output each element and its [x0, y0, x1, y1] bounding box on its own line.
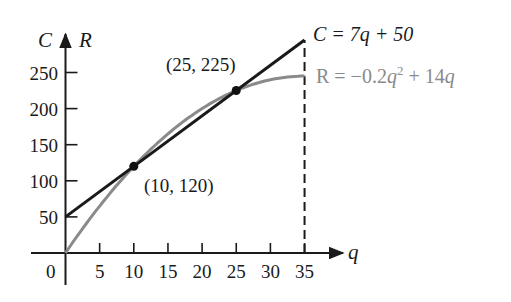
x-tick-label: 35	[295, 261, 314, 282]
cost-equation-label: C = 7q + 50	[313, 23, 413, 46]
eq-r-prefix: R = −0.2	[316, 65, 387, 87]
revenue-curve	[66, 76, 305, 253]
y-ticks: 50100150200250	[30, 63, 78, 228]
y-axis-label-c: C	[38, 28, 53, 52]
y-tick-label: 200	[30, 99, 59, 120]
x-tick-label: 15	[158, 261, 177, 282]
origin-label: 0	[46, 261, 56, 282]
x-ticks: 5101520253035	[95, 243, 314, 282]
eq-r-q: q	[387, 65, 397, 88]
point-label-25-225: (25, 225)	[166, 54, 236, 76]
x-tick-label: 30	[261, 261, 280, 282]
x-tick-label: 20	[193, 261, 212, 282]
x-tick-label: 25	[227, 261, 246, 282]
revenue-equation-label: R = −0.2q2 + 14q	[316, 63, 455, 88]
point-label-10-120: (10, 120)	[144, 175, 214, 197]
y-tick-label: 250	[30, 63, 59, 84]
intersection-point	[129, 162, 138, 171]
x-tick-label: 10	[124, 261, 143, 282]
y-tick-label: 150	[30, 135, 59, 156]
y-tick-label: 50	[39, 207, 58, 228]
intersection-point	[232, 86, 241, 95]
x-tick-label: 5	[95, 261, 105, 282]
eq-r-q2: q	[445, 65, 455, 88]
eq-r-suffix: + 14	[403, 65, 444, 87]
y-tick-label: 100	[30, 171, 59, 192]
x-axis-label: q	[348, 240, 359, 264]
eq-c-text: C = 7q + 50	[313, 23, 413, 46]
y-axis-label-r: R	[78, 28, 92, 52]
chart: C R q 0 5101520253035 50100150200250 C =…	[0, 0, 511, 302]
